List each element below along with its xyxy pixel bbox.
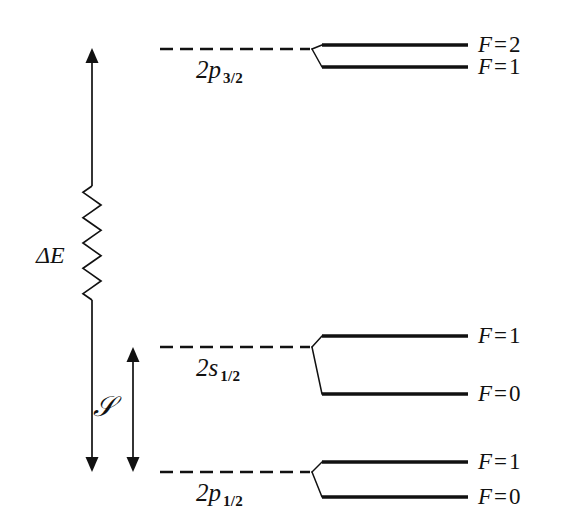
term-label-2p12: 2p1/2 xyxy=(196,480,241,505)
delta-e-label: ΔE xyxy=(36,243,65,267)
f-label-2p32-f1: F=1 xyxy=(478,55,521,78)
connector-2s12-f0 xyxy=(312,347,322,394)
delta-e-zigzag-break xyxy=(83,186,101,300)
term-label-2p32: 2p3/2 xyxy=(196,57,241,82)
connector-2p12-f1 xyxy=(312,462,322,472)
f-label-2s12-f1: F=1 xyxy=(478,324,521,347)
lamb-shift-label: 𝒮 xyxy=(93,393,115,421)
connector-2s12-f1 xyxy=(312,336,322,347)
f-label-2p12-f1: F=1 xyxy=(478,450,521,473)
f-label-2p32-f2: F=2 xyxy=(478,33,521,56)
arrow-head xyxy=(127,347,140,362)
energy-level-diagram: 2p3/2F=2F=12s1/2F=1F=02p1/2F=1F=0ΔE𝒮 xyxy=(0,0,562,521)
arrow-head xyxy=(127,457,140,472)
term-label-2s12: 2s1/2 xyxy=(196,355,238,380)
f-label-2s12-f0: F=0 xyxy=(478,382,521,405)
connector-2p32-f1 xyxy=(312,49,322,67)
connector-2p12-f0 xyxy=(312,472,322,497)
f-label-2p12-f0: F=0 xyxy=(478,485,521,508)
arrow-head xyxy=(86,457,99,472)
connector-2p32-f2 xyxy=(312,45,322,49)
arrow-head xyxy=(86,48,99,63)
